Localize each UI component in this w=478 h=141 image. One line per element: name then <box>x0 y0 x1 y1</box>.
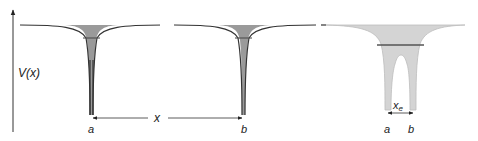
xe-label: xe <box>392 99 404 113</box>
double-well-label-b: b <box>408 123 414 135</box>
y-axis-label: V(x) <box>18 66 40 80</box>
well-b <box>174 25 316 115</box>
well-a <box>20 25 163 115</box>
label-b: b <box>241 123 247 135</box>
label-a: a <box>88 123 94 135</box>
separation-label: x <box>153 111 161 125</box>
double-well <box>326 25 465 110</box>
double-well-label-a: a <box>384 123 390 135</box>
potential-diagram: V(x) x a b xe a b <box>0 0 478 141</box>
